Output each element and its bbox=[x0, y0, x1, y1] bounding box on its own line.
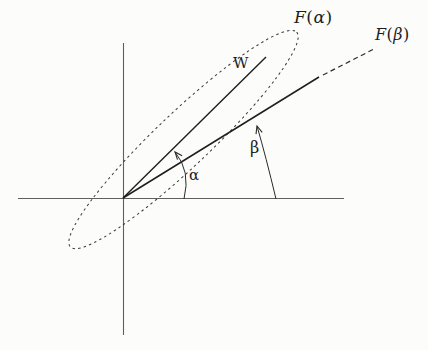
beta-angle-arc bbox=[257, 126, 276, 199]
ray-f-beta bbox=[123, 77, 319, 198]
dotted-ellipse-curve bbox=[52, 13, 315, 267]
label-alpha: α bbox=[189, 168, 200, 183]
diagram-canvas bbox=[0, 0, 428, 350]
label-beta: β bbox=[250, 140, 260, 156]
alpha-angle-arc bbox=[175, 152, 186, 199]
angle-diagram: F(α) F(β) W α β bbox=[0, 0, 428, 350]
label-f-alpha: F(α) bbox=[294, 9, 333, 26]
alpha-arrowhead-icon bbox=[175, 152, 182, 160]
label-w: W bbox=[233, 56, 249, 71]
label-f-beta: F(β) bbox=[375, 27, 410, 43]
ray-f-beta-dashed-extension bbox=[323, 49, 374, 75]
